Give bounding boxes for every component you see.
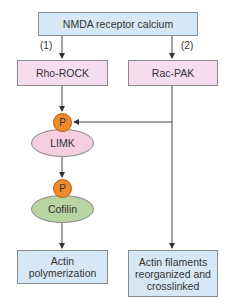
node-label: Cofilin [48,203,77,215]
cofilin-node: Cofilin [31,195,94,223]
phosphate-label: P [59,117,66,128]
node-label: Rho-ROCK [36,67,89,79]
limk-node: LIMK [31,129,94,157]
node-label: Actin polymerization [26,255,99,279]
pathway-2-label: (2) [181,40,193,51]
node-label: Actin filaments reorganized and crosslin… [133,256,213,292]
node-label: Rac-PAK [152,67,194,79]
phosphate-marker-cofilin: P [53,179,72,198]
actin-reorganized-node: Actin filaments reorganized and crosslin… [128,250,218,297]
phosphate-marker-limk: P [53,113,72,132]
rho-rock-node: Rho-ROCK [17,60,108,86]
pathway-1-label: (1) [40,40,52,51]
phosphate-label: P [59,183,66,194]
node-label: NMDA receptor calcium [63,18,173,30]
rac-pak-node: Rac-PAK [128,60,218,86]
node-label: LIMK [50,137,75,149]
nmda-receptor-calcium-node: NMDA receptor calcium [38,12,198,36]
actin-polymerization-node: Actin polymerization [17,250,108,284]
